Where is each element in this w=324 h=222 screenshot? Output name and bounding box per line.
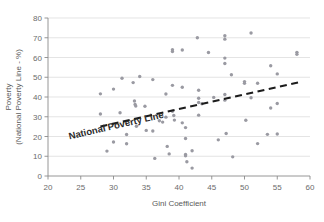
y-tick-label: 70	[33, 34, 42, 43]
x-tick-label: 60	[306, 183, 315, 192]
data-point	[223, 56, 226, 59]
data-point	[197, 113, 200, 116]
data-point	[138, 75, 141, 78]
y-axis-ticks: 01020304050607080	[33, 14, 48, 181]
data-point	[223, 34, 226, 37]
data-point	[197, 101, 200, 104]
data-point	[230, 73, 233, 76]
data-point	[99, 112, 102, 115]
data-point	[212, 96, 215, 99]
data-point	[223, 62, 226, 65]
data-point	[167, 152, 170, 155]
y-tick-label: 80	[33, 14, 42, 23]
chart-canvas: 202530354045505560 01020304050607080 Nat…	[0, 0, 324, 222]
x-tick-label: 50	[240, 183, 249, 192]
data-point	[118, 111, 121, 114]
data-point	[196, 36, 199, 39]
x-tick-label: 20	[44, 183, 53, 192]
data-point	[153, 157, 156, 160]
data-point	[112, 87, 115, 90]
x-tick-label: 25	[76, 183, 85, 192]
data-point	[151, 78, 154, 81]
data-point	[184, 137, 187, 140]
data-point	[181, 48, 184, 51]
y-tick-label: 50	[33, 73, 42, 82]
data-point	[269, 106, 272, 109]
scatter-chart: 202530354045505560 01020304050607080 Nat…	[0, 0, 324, 222]
scatter-points	[99, 31, 299, 169]
data-point	[231, 155, 234, 158]
data-point	[224, 132, 227, 135]
data-point	[164, 92, 167, 95]
data-point	[120, 77, 123, 80]
y-tick-label: 10	[33, 152, 42, 161]
data-point	[217, 138, 220, 141]
data-point	[171, 84, 174, 87]
data-point	[256, 142, 259, 145]
data-point	[99, 92, 102, 95]
x-tick-label: 40	[175, 183, 184, 192]
data-point	[223, 37, 226, 40]
y-tick-label: 20	[33, 133, 42, 142]
data-point	[125, 133, 128, 136]
data-point	[181, 86, 184, 89]
y-tick-label: 40	[33, 93, 42, 102]
data-point	[143, 105, 146, 108]
x-axis-title: Gini Coefficient	[152, 199, 207, 208]
y-tick-label: 30	[33, 113, 42, 122]
data-point	[295, 53, 298, 56]
x-tick-label: 55	[273, 183, 282, 192]
data-point	[185, 160, 188, 163]
x-tick-label: 35	[142, 183, 151, 192]
data-point	[131, 81, 134, 84]
data-point	[223, 93, 226, 96]
data-point	[276, 72, 279, 75]
data-point	[171, 50, 174, 53]
data-point	[190, 149, 193, 152]
data-point	[161, 120, 164, 123]
x-axis-ticks: 202530354045505560	[44, 176, 315, 192]
data-point	[243, 82, 246, 85]
y-axis-title-line2: (National Poverty Line - %)	[14, 49, 23, 145]
data-point	[276, 102, 279, 105]
data-point	[190, 166, 193, 169]
data-point	[244, 119, 247, 122]
x-tick-label: 45	[207, 183, 216, 192]
data-point	[173, 118, 176, 121]
data-point	[184, 126, 187, 129]
data-point	[164, 115, 167, 118]
data-point	[172, 114, 175, 117]
data-point	[269, 64, 272, 67]
data-point	[105, 149, 108, 152]
y-tick-label: 0	[38, 172, 43, 181]
data-point	[166, 145, 169, 148]
data-point	[276, 132, 279, 135]
data-point	[184, 154, 187, 157]
data-point	[249, 31, 252, 34]
y-axis-title-line1: Poverty	[4, 83, 13, 110]
data-point	[133, 99, 136, 102]
data-point	[197, 89, 200, 92]
data-point	[134, 104, 137, 107]
data-point	[256, 81, 259, 84]
data-point	[151, 129, 154, 132]
data-point	[125, 142, 128, 145]
data-point	[112, 140, 115, 143]
x-tick-label: 30	[109, 183, 118, 192]
data-point	[207, 51, 210, 54]
data-point	[249, 96, 252, 99]
data-point	[145, 129, 148, 132]
data-point	[197, 96, 200, 99]
data-point	[181, 121, 184, 124]
data-point	[266, 133, 269, 136]
y-tick-label: 60	[33, 54, 42, 63]
